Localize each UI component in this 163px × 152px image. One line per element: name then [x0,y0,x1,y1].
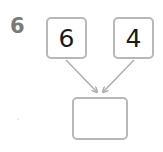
arrow-right-icon [103,60,134,92]
answer-box[interactable] [72,97,128,140]
decorative-speck [17,118,19,120]
arrow-left-icon [66,60,97,92]
